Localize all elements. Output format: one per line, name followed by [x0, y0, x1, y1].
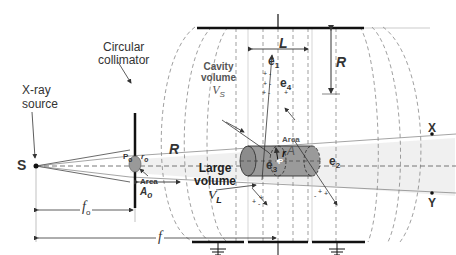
e4-label: e4 [280, 77, 291, 92]
point-x-label: X [428, 122, 436, 134]
point-y [430, 191, 434, 195]
point-y-label: Y [428, 197, 436, 209]
e3-label: e3 [266, 159, 277, 174]
e4-sub: 4 [287, 83, 291, 92]
radius-upper-label: R [336, 55, 346, 69]
area0-label: Area Ao [140, 178, 158, 199]
p0-sub: o [128, 156, 132, 163]
e1-text: e [268, 54, 275, 68]
collimator-label: Circular collimator [98, 41, 149, 66]
e1-label: e1 [268, 55, 279, 70]
xray-source-line1: X-ray [22, 84, 58, 96]
e2-text: e [329, 154, 336, 168]
point-p-label: P [278, 158, 283, 166]
cavity-symbol-text: V [212, 83, 219, 97]
electron-track-e4 [285, 108, 295, 120]
r0-label: ro [141, 153, 148, 163]
r0-sub: o [144, 156, 148, 163]
p0-label: Po [123, 153, 132, 163]
f0-sub: o [86, 208, 90, 217]
svg-text:+: + [259, 194, 263, 201]
e4-text: e [280, 76, 287, 90]
area0-sub: o [147, 190, 152, 200]
large-volume-label: Large volume VL [194, 162, 236, 205]
large-symbol: VL [194, 188, 236, 205]
svg-text:+: + [324, 190, 328, 197]
area0-line1: Area [140, 178, 158, 186]
svg-text:-: - [258, 200, 261, 207]
svg-text:+: + [263, 80, 267, 87]
svg-text:-: - [269, 80, 272, 87]
e2-label: e2 [329, 155, 340, 170]
large-line2: volume [194, 175, 236, 187]
svg-text:-: - [314, 192, 317, 199]
e3-sub: 3 [273, 165, 277, 174]
radius-lower-label: R [169, 142, 179, 156]
source-point [34, 164, 39, 169]
xray-source-label: X-ray source [22, 84, 58, 110]
ionization-chamber-diagram: +- +- +- + +- + ++ - [0, 0, 456, 255]
svg-text:+: + [318, 188, 322, 195]
cavity-symbol: VS [201, 84, 236, 99]
collimator-line1: Circular [98, 41, 149, 53]
source-label: S [17, 158, 26, 172]
beam-source-cone [36, 150, 130, 182]
cavity-line2: volume [201, 73, 236, 83]
f-label: f [156, 230, 164, 244]
xray-source-line2: source [22, 98, 58, 110]
cavity-line1: Cavity [201, 62, 236, 72]
cavity-sub: S [220, 90, 225, 99]
large-line1: Large [194, 162, 236, 174]
radius-r-label: r [282, 149, 286, 159]
svg-text:+: + [262, 89, 266, 96]
svg-text:+: + [263, 70, 267, 77]
svg-text:-: - [268, 89, 271, 96]
area0-symbol: Ao [140, 187, 158, 199]
e1-sub: 1 [275, 61, 279, 70]
area-line1: Area [282, 136, 300, 144]
collimator-line2: collimator [98, 54, 149, 66]
e3-text: e [266, 158, 273, 172]
svg-text:-: - [269, 70, 272, 77]
large-sub: L [216, 195, 222, 205]
e2-sub: 2 [336, 161, 340, 170]
svg-text:+: + [252, 198, 256, 205]
f0-label: fo [80, 200, 92, 217]
length-label: L [279, 36, 288, 50]
cavity-volume-label: Cavity volume VS [201, 62, 236, 99]
